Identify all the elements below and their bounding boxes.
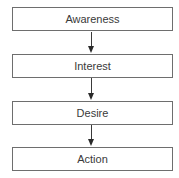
arrow-line-2: [91, 78, 92, 94]
node-awareness: Awareness: [12, 7, 173, 31]
node-desire: Desire: [12, 101, 173, 125]
arrow-line-1: [91, 32, 92, 47]
arrowhead-icon: [88, 93, 94, 100]
node-label: Action: [77, 153, 108, 165]
arrowhead-icon: [88, 46, 94, 53]
arrowhead-icon: [88, 139, 94, 146]
node-label: Interest: [74, 60, 111, 72]
node-label: Desire: [77, 107, 109, 119]
node-interest: Interest: [12, 54, 173, 78]
node-label: Awareness: [65, 13, 119, 25]
arrow-line-3: [91, 125, 92, 140]
node-action: Action: [12, 147, 173, 171]
